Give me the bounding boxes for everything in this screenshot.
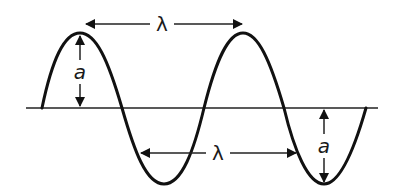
wavelength-label-top: λ — [156, 12, 168, 36]
amplitude-label-left: a — [74, 60, 86, 84]
amplitude-arrow-right: a — [318, 110, 330, 182]
wavelength-arrow-top: λ — [86, 12, 242, 36]
amplitude-label-right: a — [318, 134, 330, 158]
amplitude-arrow-left: a — [74, 36, 86, 106]
wavelength-label-bottom: λ — [212, 141, 224, 165]
wavelength-arrow-bottom: λ — [141, 141, 296, 165]
wave-diagram: λ λ a a — [0, 0, 401, 195]
